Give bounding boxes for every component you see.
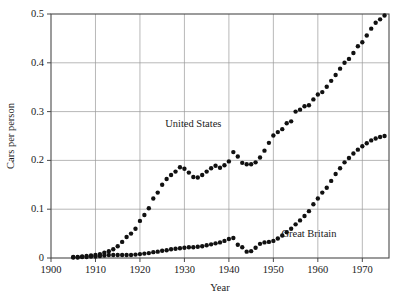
data-point (209, 242, 213, 246)
data-point (204, 169, 208, 173)
data-point (102, 253, 106, 257)
x-tick-label: 1960 (307, 264, 328, 275)
data-point (307, 103, 311, 107)
data-point (129, 231, 133, 235)
data-point (231, 236, 235, 240)
x-tick-label: 1920 (129, 264, 150, 275)
data-point (249, 249, 253, 253)
data-point (178, 246, 182, 250)
data-point (187, 245, 191, 249)
data-point (369, 138, 373, 142)
data-point (249, 162, 253, 166)
data-point (75, 255, 79, 259)
data-point (333, 172, 337, 176)
data-point (293, 109, 297, 113)
data-point (71, 255, 75, 259)
data-point (276, 236, 280, 240)
data-point (151, 196, 155, 200)
data-point (84, 255, 88, 259)
data-point (116, 253, 120, 257)
data-point (302, 104, 306, 108)
data-point (276, 130, 280, 134)
data-point (227, 237, 231, 241)
data-point (120, 240, 124, 244)
data-point (222, 239, 226, 243)
x-tick-label: 1930 (174, 264, 195, 275)
data-point (360, 144, 364, 148)
data-point (333, 73, 337, 77)
data-point (133, 227, 137, 231)
y-tick-label: 0.4 (31, 57, 45, 68)
x-axis-title: Year (210, 282, 230, 293)
data-point (204, 243, 208, 247)
data-point (142, 251, 146, 255)
data-point (156, 190, 160, 194)
data-point (116, 244, 120, 248)
data-point (160, 248, 164, 252)
y-tick-label: 0.5 (31, 8, 44, 19)
data-point (138, 252, 142, 256)
data-point (298, 107, 302, 111)
data-point (373, 21, 377, 25)
data-point (191, 175, 195, 179)
data-point (356, 44, 360, 48)
data-point (93, 254, 97, 258)
data-point (356, 147, 360, 151)
y-axis-ticks: 00.10.20.30.40.5 (31, 8, 51, 263)
data-point (218, 166, 222, 170)
data-point (267, 240, 271, 244)
data-point (98, 254, 102, 258)
data-point (338, 166, 342, 170)
data-point (253, 160, 257, 164)
data-point (347, 57, 351, 61)
data-point (382, 134, 386, 138)
data-point (200, 244, 204, 248)
data-point (138, 219, 142, 223)
data-point (258, 155, 262, 159)
data-point (196, 245, 200, 249)
data-point (236, 154, 240, 158)
data-point (262, 240, 266, 244)
y-axis-title: Cars per person (5, 102, 16, 169)
data-point (173, 169, 177, 173)
data-point (173, 247, 177, 251)
data-point (342, 61, 346, 65)
series-annotation: Great Britain (281, 228, 337, 239)
data-point (169, 247, 173, 251)
data-point (320, 90, 324, 94)
data-point (120, 253, 124, 257)
data-point (351, 51, 355, 55)
x-axis-ticks: 19001910192019301940195019601970 (41, 258, 373, 275)
data-point (285, 121, 289, 125)
cars-per-person-chart: 00.10.20.30.40.5 19001910192019301940195… (0, 0, 418, 299)
data-point (253, 246, 257, 250)
data-point (111, 247, 115, 251)
data-point (378, 135, 382, 139)
data-point (222, 163, 226, 167)
data-point (124, 253, 128, 257)
data-point (342, 160, 346, 164)
x-tick-label: 1910 (85, 264, 106, 275)
data-point (302, 214, 306, 218)
data-point (271, 133, 275, 137)
data-point (147, 206, 151, 210)
data-point (111, 253, 115, 257)
data-point (129, 253, 133, 257)
y-tick-label: 0 (39, 252, 44, 263)
data-point (382, 13, 386, 17)
data-point (200, 173, 204, 177)
chart-canvas: 00.10.20.30.40.5 19001910192019301940195… (0, 0, 418, 299)
data-point (133, 252, 137, 256)
data-point (369, 26, 373, 30)
data-point (311, 97, 315, 101)
data-point (293, 222, 297, 226)
data-point (178, 165, 182, 169)
data-point (160, 183, 164, 187)
data-point (378, 17, 382, 21)
data-point (231, 150, 235, 154)
data-point (182, 167, 186, 171)
data-point (338, 66, 342, 70)
data-point (244, 249, 248, 253)
data-point (262, 148, 266, 152)
data-point (213, 164, 217, 168)
